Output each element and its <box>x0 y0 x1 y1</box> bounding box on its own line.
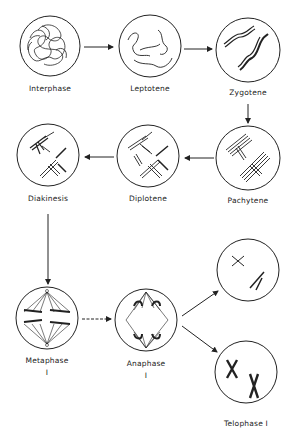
leptotene-cell <box>119 15 181 77</box>
label-leptotene: Leptotene <box>110 84 190 93</box>
label-metaphase-roman: I <box>7 368 87 377</box>
label-interphase: Interphase <box>10 84 90 93</box>
metaphase1-cell <box>16 287 78 349</box>
telophase1-upper-cell <box>217 239 279 301</box>
label-diakinesis: Diakinesis <box>8 194 88 203</box>
zygotene-cell <box>216 18 280 82</box>
label-zygotene: Zygotene <box>208 88 288 97</box>
label-diplotene: Diplotene <box>108 194 188 203</box>
telophase1-lower-cell <box>215 341 277 403</box>
label-anaphase-roman: I <box>106 371 186 380</box>
label-metaphase: Metaphase <box>7 356 87 365</box>
label-telophase: Telophase I <box>206 419 286 428</box>
label-anaphase: Anaphase <box>106 359 186 368</box>
diakinesis-cell <box>17 124 79 186</box>
label-pachytene: Pachytene <box>208 196 288 205</box>
diplotene-cell <box>117 125 179 187</box>
